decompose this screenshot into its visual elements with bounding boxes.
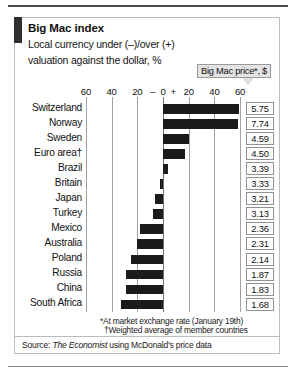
source-divider: [15, 336, 279, 337]
bar-china: [126, 285, 163, 295]
price-box-turkey: 3.13: [246, 207, 274, 220]
gridline--20: [137, 97, 138, 312]
plot-area: [86, 97, 241, 312]
x-tick-: –: [150, 86, 155, 97]
price-box-china: 1.83: [246, 283, 274, 296]
x-tick-: +: [171, 86, 176, 97]
bar-mexico: [140, 224, 163, 234]
source-line: Source: The Economist using McDonald's p…: [22, 340, 212, 350]
category-label-britain: Britain: [0, 177, 82, 188]
accent-tab: [14, 17, 22, 43]
category-label-euro-area: Euro area†: [0, 147, 82, 158]
axis-zero-line: [163, 97, 164, 312]
price-box-switzerland: 5.75: [246, 102, 274, 115]
bar-turkey: [153, 209, 163, 219]
bar-sweden: [163, 134, 189, 144]
bar-switzerland: [163, 104, 239, 114]
category-label-south-africa: South Africa: [0, 297, 82, 308]
price-box-poland: 2.14: [246, 253, 274, 266]
gridline--40: [112, 97, 113, 312]
bar-brazil: [163, 164, 168, 174]
chart-title: Big Mac index: [28, 22, 104, 34]
bar-poland: [131, 255, 163, 265]
price-box-japan: 3.21: [246, 192, 274, 205]
source-publication: The Economist: [52, 340, 107, 350]
bar-south-africa: [121, 300, 163, 310]
bar-norway: [163, 119, 238, 129]
price-box-mexico: 2.36: [246, 222, 274, 235]
x-tick-60: 60: [81, 86, 91, 97]
gridline-20: [189, 97, 190, 312]
price-box-russia: 1.87: [246, 268, 274, 281]
x-tick-20: 20: [184, 86, 194, 97]
chart-subtitle-line2: valuation against the dollar, %: [28, 54, 161, 66]
category-label-mexico: Mexico: [0, 222, 82, 233]
price-box-sweden: 4.59: [246, 132, 274, 145]
source-suffix: using McDonald's price data: [107, 340, 211, 350]
chart-subtitle-line1: Local currency under (–)/over (+): [28, 38, 175, 50]
gridline-60: [240, 97, 241, 312]
price-box-australia: 2.31: [246, 237, 274, 250]
category-label-turkey: Turkey: [0, 207, 82, 218]
chart-figure: Big Mac index Local currency under (–)/o…: [0, 0, 296, 372]
category-label-russia: Russia: [0, 267, 82, 278]
category-label-brazil: Brazil: [0, 162, 82, 173]
source-prefix: Source:: [22, 340, 52, 350]
gridline-40: [214, 97, 215, 312]
bar-australia: [137, 239, 163, 249]
price-box-south-africa: 1.68: [246, 298, 274, 311]
category-label-norway: Norway: [0, 117, 82, 128]
category-label-china: China: [0, 282, 82, 293]
price-box-brazil: 3.39: [246, 162, 274, 175]
category-label-switzerland: Switzerland: [0, 102, 82, 113]
x-tick-40: 40: [209, 86, 219, 97]
category-label-japan: Japan: [0, 192, 82, 203]
bottom-divider: [8, 366, 288, 367]
x-tick-60: 60: [235, 86, 245, 97]
footnote-2: †Weighted average of member countries: [104, 325, 248, 335]
x-tick-0: 0: [160, 86, 165, 97]
category-label-poland: Poland: [0, 252, 82, 263]
gridline--60: [86, 97, 87, 312]
bar-japan: [155, 194, 163, 204]
bar-britain: [160, 179, 163, 189]
price-box-britain: 3.33: [246, 177, 274, 190]
category-label-australia: Australia: [0, 237, 82, 248]
price-legend-callout: Big Mac price*, $: [197, 64, 271, 78]
callout-pointer-icon: [243, 78, 253, 85]
bar-russia: [126, 270, 163, 280]
x-tick-40: 40: [106, 86, 116, 97]
bar-euro-area: [163, 149, 185, 159]
x-tick-20: 20: [132, 86, 142, 97]
price-box-norway: 7.74: [246, 117, 274, 130]
top-divider: [8, 5, 288, 7]
category-label-sweden: Sweden: [0, 132, 82, 143]
price-box-euro-area: 4.50: [246, 147, 274, 160]
